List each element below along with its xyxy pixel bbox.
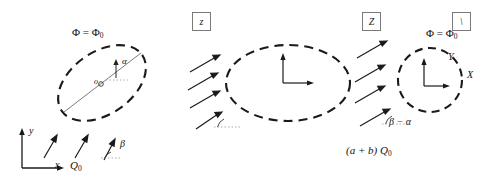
field-arrow (355, 86, 385, 103)
field-arrow-group (44, 135, 115, 160)
left-source-label: Q0 (70, 160, 82, 172)
field-arrow (355, 65, 385, 82)
flux-circle (398, 48, 462, 112)
tau-axis-arrowhead (443, 83, 450, 88)
left-x-axis-label: x (55, 160, 59, 170)
panel-left: Φ = Φ0 o α β y x Q0 (0, 0, 170, 183)
field-arrow-group (188, 55, 222, 129)
omega-axis-arrowhead (421, 58, 426, 65)
left-alpha-label: α (122, 57, 127, 66)
left-center-point-label: o (94, 78, 98, 86)
panel-mid: Φ = Φ0 Y X β − α (a + b) Q0 (160, 0, 335, 183)
field-arrow-group (355, 41, 390, 126)
left-beta-label: β (120, 139, 125, 149)
angle-arc (218, 119, 225, 127)
Y-axis-arrowhead (280, 53, 285, 60)
panel-right: Φ = Φ0 ω τ β − α 12(a + b) Q0 (330, 0, 492, 183)
alpha-arrowhead (113, 59, 118, 65)
X-axis-arrowhead (307, 80, 314, 85)
field-arrow (44, 135, 57, 158)
y-axis-arrowhead (19, 128, 25, 135)
field-arrow (357, 41, 387, 58)
field-arrow (190, 91, 220, 108)
physics-figure: z Z \ (0, 0, 492, 183)
field-arrow (104, 139, 115, 160)
angle-arc (386, 116, 393, 124)
field-arrow (190, 55, 220, 72)
field-arrow (75, 135, 88, 158)
left-flux-label: Φ = Φ0 (72, 27, 104, 39)
left-y-axis-label: y (29, 126, 33, 136)
field-arrow (188, 73, 218, 90)
